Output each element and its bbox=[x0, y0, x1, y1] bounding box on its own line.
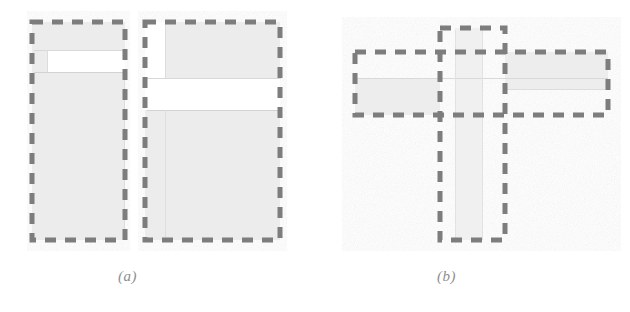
b-filled-bands bbox=[355, 28, 608, 240]
vertical-filled-band bbox=[455, 28, 483, 240]
horizontal-filled-band-left bbox=[355, 78, 440, 115]
panel-a bbox=[0, 0, 630, 312]
figure-root: (a) (b) bbox=[0, 0, 630, 312]
panel-b-caption: (b) bbox=[437, 268, 456, 285]
horizontal-filled-band-right bbox=[505, 52, 608, 89]
left-white-notch bbox=[47, 50, 125, 72]
panel-a-caption: (a) bbox=[118, 268, 137, 285]
